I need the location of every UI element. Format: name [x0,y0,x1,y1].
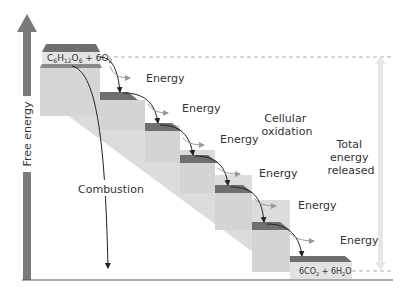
cellular-oxidation-label: Cellular oxidation [262,112,313,138]
energy-label-4: Energy [259,167,298,180]
free-energy-staircase-diagram: Free energy C6H12O6 + 6O2 6CO2 + 6H2O [0,0,413,295]
combustion-label: Combustion [78,183,144,196]
energy-label-3: Energy [220,133,259,146]
energy-label-1: Energy [146,72,185,85]
y-axis-label: Free energy [21,101,34,167]
energy-label-6: Energy [340,234,379,247]
energy-label-5: Energy [298,199,337,212]
energy-label-2: Energy [182,102,221,115]
total-energy-released-label: Total energy released [327,138,374,177]
staircase [40,44,352,279]
